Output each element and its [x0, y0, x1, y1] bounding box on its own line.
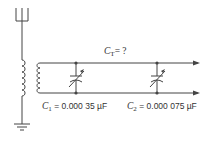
variable-capacitor-c1-icon	[69, 63, 84, 93]
variable-capacitor-c2-icon	[150, 63, 165, 93]
c1-value: = 0.000 35 µF	[54, 101, 107, 111]
c1-subscript: 1	[48, 105, 52, 113]
secondary-coil-icon	[37, 63, 40, 93]
total-capacitance-label: CT= ?	[104, 46, 127, 58]
c2-label: C2 = 0.000 075 µF	[127, 101, 197, 113]
bottom-arrow-icon	[193, 91, 200, 96]
c2-value: = 0.000 075 µF	[139, 101, 197, 111]
c2-subscript: 2	[133, 105, 137, 113]
ct-value: = ?	[115, 46, 127, 56]
primary-coil-icon	[22, 60, 25, 96]
antenna-icon	[16, 8, 28, 21]
top-arrow-icon	[193, 61, 200, 66]
c1-label: C1 = 0.000 35 µF	[42, 101, 107, 113]
ground-icon	[14, 124, 30, 130]
circuit-diagram	[0, 0, 214, 144]
